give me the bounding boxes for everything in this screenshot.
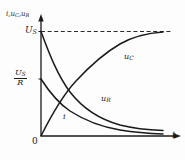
plot-canvas: [0, 0, 185, 160]
curve-ur: [41, 32, 163, 131]
curve-label-i: i: [63, 113, 66, 121]
y-tick-label-us: US: [25, 26, 37, 36]
rc-transient-response-figure: i,uC,uR US US R 0 t uC uR i: [0, 0, 185, 160]
fraction-denominator: R: [14, 79, 27, 87]
origin-label: 0: [32, 137, 38, 146]
curve-i: [41, 79, 163, 134]
x-axis-label: t: [172, 131, 176, 140]
curve-uc: [41, 32, 163, 136]
curve-label-ur: uR: [101, 95, 111, 104]
curve-label-uc: uC: [124, 53, 134, 62]
y-tick-label-us-over-r: US R: [14, 69, 27, 88]
y-axis-quantities-label: i,uC,uR: [6, 11, 29, 18]
fraction-numerator: US: [14, 69, 27, 77]
